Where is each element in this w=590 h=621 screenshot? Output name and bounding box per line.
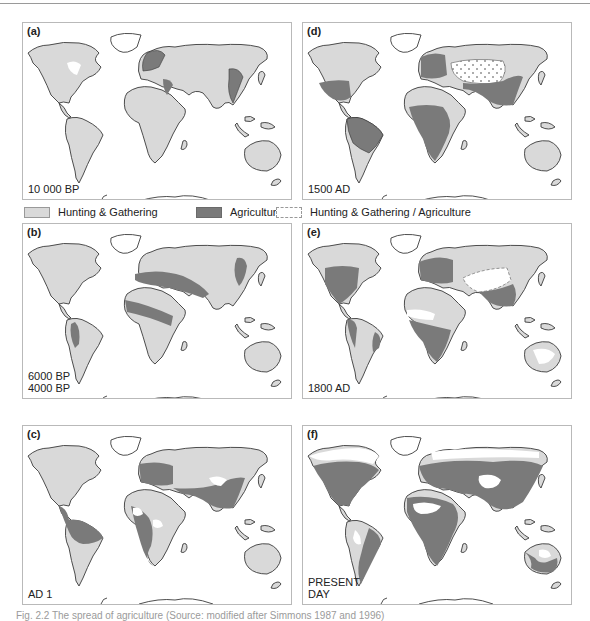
world-map: [23, 23, 292, 200]
top-rule: [0, 3, 590, 4]
map-panel-e: (e) 1800 AD: [302, 223, 572, 399]
legend-item-mixed: Hunting & Gathering / Agriculture: [276, 206, 471, 218]
map-legend: Hunting & Gathering Agriculture Hunting …: [22, 206, 582, 220]
legend-label: Agriculture: [230, 206, 283, 218]
map-panel-a: (a) 10 000 BP: [22, 22, 292, 200]
panel-label: (f): [307, 428, 318, 440]
swatch-mixed: [276, 207, 302, 218]
legend-label: Hunting & Gathering: [58, 206, 158, 218]
panel-period: 6000 BP 4000 BP: [28, 370, 70, 394]
panel-period: 10 000 BP: [28, 183, 79, 195]
panel-period: AD 1: [28, 588, 52, 600]
panel-period: 1500 AD: [308, 183, 350, 195]
map-panel-f: (f) PRESENT DAY: [302, 425, 572, 605]
panel-label: (d): [307, 25, 321, 37]
panel-period: PRESENT DAY: [308, 576, 360, 600]
map-panel-c: (c) AD 1: [22, 425, 292, 605]
world-map: [303, 224, 572, 399]
panel-label: (e): [307, 226, 320, 238]
panel-period: 1800 AD: [308, 382, 350, 394]
legend-label: Hunting & Gathering / Agriculture: [310, 206, 471, 218]
swatch-hunting-gathering: [24, 207, 50, 218]
swatch-agriculture: [196, 207, 222, 218]
map-panel-d: (d) 1500 AD: [302, 22, 572, 200]
figure-caption: Fig. 2.2 The spread of agriculture (Sour…: [16, 610, 384, 621]
panel-label: (b): [27, 226, 41, 238]
legend-item-agriculture: Agriculture: [196, 206, 283, 218]
legend-item-hunting-gathering: Hunting & Gathering: [24, 206, 158, 218]
map-panel-b: (b) 6000 BP 4000 BP: [22, 223, 292, 399]
panel-label: (c): [27, 428, 40, 440]
world-map: [303, 23, 572, 200]
panel-label: (a): [27, 25, 40, 37]
world-map: [23, 426, 292, 605]
